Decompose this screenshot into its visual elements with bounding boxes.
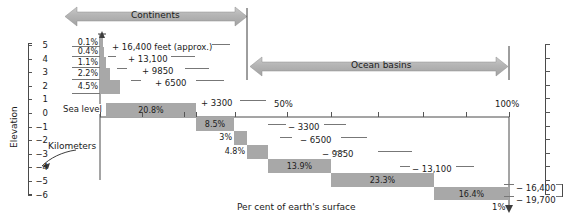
- leader-dash: [333, 151, 345, 152]
- right-tick-mark: [545, 139, 550, 140]
- y-tick-1: 1: [34, 95, 48, 104]
- bar-value-label: 8.5%: [196, 120, 234, 129]
- staircase-dash: [72, 93, 100, 94]
- bar-0_4pct: [100, 47, 104, 57]
- x-tick-mark: [142, 112, 143, 117]
- leader-dash: [212, 44, 230, 45]
- right-tick-mark: [545, 153, 550, 154]
- leader-dash: [240, 100, 266, 101]
- y-tick-4: 4: [34, 55, 48, 64]
- sea-level-label: Sea level: [62, 104, 103, 114]
- leader-dash: [400, 166, 410, 167]
- leader-dash: [504, 196, 514, 197]
- feet-label: − 16,400: [516, 184, 556, 193]
- x-tick-mark: [287, 112, 288, 117]
- bar-4_8pct: [247, 145, 268, 159]
- x-tick-mark: [466, 112, 467, 117]
- bar-value-label: 23.3%: [331, 176, 434, 185]
- one-percent-label: 1%: [492, 203, 506, 212]
- leader-dash: [324, 124, 346, 125]
- bar-20_8pct: 20.8%: [106, 103, 196, 117]
- leader-dash: [185, 68, 209, 69]
- x-tick-label-50: 50%: [274, 100, 293, 109]
- feet-label: + 3300: [201, 99, 232, 108]
- feet-label: + 13,100: [128, 55, 168, 64]
- x-tick-mark: [184, 112, 185, 117]
- bar-value-label: 3%: [208, 133, 232, 142]
- right-tick-mark: [545, 58, 550, 59]
- x-axis-title: Per cent of earth's surface: [237, 203, 356, 212]
- bar-value-label: 20.8%: [106, 106, 196, 115]
- feet-label: − 19,700: [516, 196, 556, 205]
- feet-label: + 9850: [142, 67, 173, 76]
- x-tick-mark: [378, 112, 379, 117]
- feet-bracket: [562, 184, 563, 197]
- y-tick-5: 5: [34, 41, 48, 50]
- y-tick--6: −6: [34, 191, 48, 200]
- right-tick-mark: [545, 44, 550, 45]
- bar-value-label: 4.8%: [221, 147, 245, 156]
- x-tick-mark: [196, 112, 197, 117]
- right-tick-mark: [545, 85, 550, 86]
- feet-label: + 6500: [155, 79, 186, 88]
- leader-dash: [268, 124, 286, 125]
- right-tick-mark: [545, 166, 550, 167]
- staircase-dash: [72, 79, 100, 80]
- right-tick-mark: [545, 98, 550, 99]
- leader-dash: [280, 137, 292, 138]
- x-tick-mark: [235, 112, 236, 117]
- bar-value-label: 1.1%: [74, 58, 98, 67]
- y-tick--3: −3: [34, 150, 48, 159]
- x-tick-mark: [100, 112, 101, 117]
- ocean-basins-label: Ocean basins: [351, 61, 411, 70]
- y-tick-3: 3: [34, 68, 48, 77]
- bar-2_2pct: [100, 68, 110, 80]
- feet-label: − 6500: [300, 136, 331, 145]
- right-tick-mark: [545, 112, 550, 113]
- feet-label: + 16,400 feet (approx.): [112, 43, 212, 52]
- y-tick-0: 0: [34, 109, 48, 118]
- bar-value-label: 13.9%: [268, 162, 331, 171]
- y-tick--4: −4: [34, 163, 48, 172]
- y-axis-cap-bottom: [28, 194, 32, 195]
- bar-8_5pct: 8.5%: [196, 117, 234, 131]
- y-axis-cap-top: [28, 43, 32, 44]
- leader-dash: [196, 80, 224, 81]
- x-tick-mark: [331, 112, 332, 117]
- bar-value-label: 0.4%: [74, 47, 98, 56]
- y-axis-line: [28, 43, 29, 195]
- hypsographic-curve-figure: Continents Ocean basins Elevation 543210…: [0, 0, 564, 218]
- bar-value-label: 4.5%: [74, 82, 98, 91]
- continents-label: Continents: [131, 11, 180, 20]
- leader-dash: [456, 166, 474, 167]
- y-tick-2: 2: [34, 82, 48, 91]
- leader-dash: [171, 56, 195, 57]
- right-tick-mark: [545, 180, 550, 181]
- y-tick--2: −2: [34, 136, 48, 145]
- bar-23_3pct: 23.3%: [331, 173, 434, 187]
- right-tick-mark: [545, 71, 550, 72]
- x-tick-label-100: 100%: [495, 100, 519, 109]
- y-tick--5: −5: [34, 177, 48, 186]
- x-tick-mark: [509, 112, 510, 117]
- right-tick-mark: [545, 194, 550, 195]
- bar-3pct: [234, 131, 247, 145]
- leader-dash: [504, 184, 514, 185]
- feet-label: − 3300: [288, 123, 319, 132]
- leader-dash: [117, 68, 127, 69]
- right-axis-line: [545, 44, 546, 194]
- feet-label: − 13,100: [412, 165, 452, 174]
- leader-dash: [108, 56, 116, 57]
- bar-4_5pct: [100, 80, 120, 94]
- bar-value-label: 16.4%: [434, 189, 509, 198]
- leader-dash: [341, 137, 367, 138]
- bar-1_1pct: [100, 57, 106, 68]
- bar-0_1pct: [100, 38, 103, 47]
- y-axis-title: Elevation: [9, 106, 19, 148]
- staircase-dash: [72, 67, 100, 68]
- right-tick-mark: [545, 126, 550, 127]
- leader-dash: [131, 80, 141, 81]
- bar-13_9pct: 13.9%: [268, 159, 331, 173]
- x-tick-mark: [423, 112, 424, 117]
- y-tick--1: −1: [34, 123, 48, 132]
